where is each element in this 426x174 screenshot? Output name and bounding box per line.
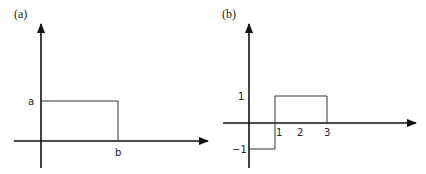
x-tick-b: b [115, 147, 121, 158]
y-tick-minus1: −1 [232, 144, 247, 155]
x-tick-2: 2 [297, 127, 303, 138]
panel-b-label: (b) [222, 7, 236, 21]
x-tick-3: 3 [324, 127, 330, 138]
x-tick-1: 1 [276, 127, 282, 138]
panel-a: (a) a b [14, 7, 208, 168]
y-tick-1: 1 [238, 91, 244, 102]
y-tick-a: a [28, 96, 34, 107]
figure: (a) a b (b) 1 −1 1 2 3 [0, 0, 426, 174]
panel-a-label: (a) [14, 7, 27, 21]
pulse-curve [41, 101, 118, 141]
panel-b: (b) 1 −1 1 2 3 [222, 7, 416, 168]
